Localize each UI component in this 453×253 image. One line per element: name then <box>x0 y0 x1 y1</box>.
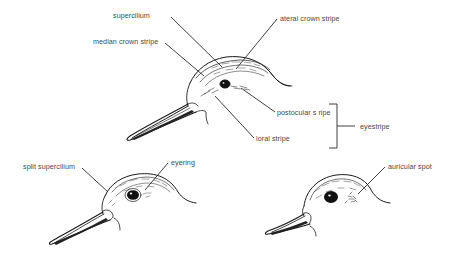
top-bird-head <box>127 17 355 148</box>
label-median-crown-stripe: median crown stripe <box>93 38 158 45</box>
label-lateral-crown-stripe: ateral crown stripe <box>280 15 340 22</box>
bird-head-markings-diagram: supercilium ateral crown stripe median c… <box>0 0 453 253</box>
label-eyering: eyering <box>171 159 195 166</box>
label-auricular-spot: auricular spot <box>388 163 432 170</box>
bottom-left-bird-head <box>49 163 196 245</box>
label-split-supercilium: split supercilium <box>23 163 75 170</box>
label-postocular-stripe: postocular s ripe <box>277 109 331 116</box>
label-eyestripe: eyestripe <box>360 123 390 130</box>
bottom-right-bird-head <box>265 167 390 236</box>
label-loral-stripe: loral stripe <box>256 135 290 142</box>
label-supercilium: supercilium <box>113 12 150 19</box>
